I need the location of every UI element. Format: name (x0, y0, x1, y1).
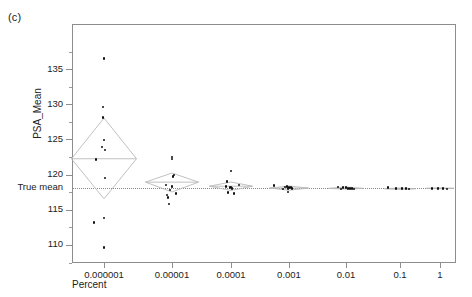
x-tick-mark (172, 263, 173, 268)
y-minor-tick-mark (69, 227, 72, 228)
mean-diamond-0.000001 (71, 117, 137, 200)
y-tick-label: 130 (0, 98, 63, 109)
x-tick-mark (440, 263, 441, 268)
y-minor-tick-mark (69, 52, 72, 53)
x-tick-mark (289, 263, 290, 268)
y-tick-mark (66, 245, 72, 246)
panel-label: (c) (8, 11, 21, 23)
true-mean-label-text: True mean (0, 181, 63, 192)
x-tick-mark (231, 263, 232, 268)
y-tick-mark (66, 210, 72, 211)
y-tick-label: 110 (0, 238, 63, 249)
x-tick-mark (346, 263, 347, 268)
y-tick-mark (66, 104, 72, 105)
x-axis-title: Percent (72, 279, 106, 290)
x-tick-mark (400, 263, 401, 268)
y-tick-label: 135 (0, 63, 63, 74)
y-tick-mark (66, 69, 72, 70)
y-tick-label: 115 (0, 203, 63, 214)
data-point (93, 221, 96, 224)
y-minor-tick-mark (69, 87, 72, 88)
x-tick-label: 1 (398, 269, 472, 280)
figure-panel-c: (c) PSA_Mean Percent 135130125120115110T… (0, 0, 472, 297)
y-minor-tick-mark (69, 263, 72, 264)
y-tick-label: 120 (0, 168, 63, 179)
x-tick-mark (104, 263, 105, 268)
y-tick-label: 125 (0, 133, 63, 144)
